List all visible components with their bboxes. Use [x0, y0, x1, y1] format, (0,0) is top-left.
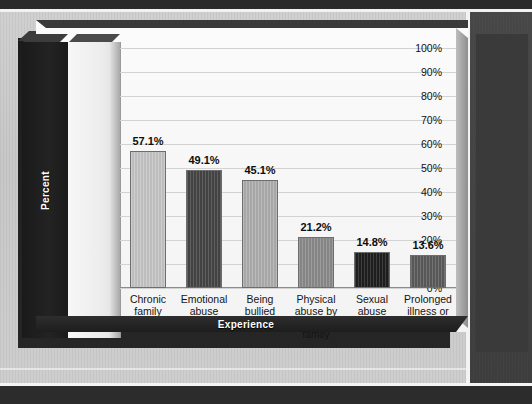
bar[interactable] — [130, 151, 166, 288]
gridline — [120, 72, 456, 73]
y-tick-label: 80% — [421, 90, 442, 102]
gridline — [120, 144, 456, 145]
y-tick-label: 100% — [415, 42, 442, 54]
y-tick-label: 70% — [421, 114, 442, 126]
y-axis-title-text: Percent — [39, 171, 50, 210]
bar[interactable] — [410, 255, 446, 288]
gridline — [120, 240, 456, 241]
gridline — [120, 120, 456, 121]
adjacent-dark-panel — [470, 12, 532, 383]
gridline — [120, 264, 456, 265]
gridline — [120, 48, 456, 49]
x-axis-baseline — [120, 287, 456, 288]
y-tick-label: 50% — [421, 162, 442, 174]
x-category-label-line: Prolonged — [393, 294, 463, 306]
x-axis-title-text: Experience — [218, 319, 274, 330]
gridline — [120, 192, 456, 193]
gridlines — [120, 48, 456, 288]
adjacent-dark-panel-inner — [476, 34, 528, 352]
plot-board-top-shadow — [36, 20, 468, 28]
bar-value-label: 49.1% — [188, 154, 219, 166]
bar-value-label: 21.2% — [300, 221, 331, 233]
y-tick-label: 40% — [421, 186, 442, 198]
bar-value-label: 57.1% — [132, 135, 163, 147]
page-lower-rule — [0, 368, 532, 370]
gridline — [120, 96, 456, 97]
bar[interactable] — [186, 170, 222, 288]
bar[interactable] — [242, 180, 278, 288]
plot-area: 0%10%20%30%40%50%60%70%80%90%100% 57.1%4… — [120, 48, 456, 288]
bar-value-label: 45.1% — [244, 164, 275, 176]
gridline — [120, 288, 456, 289]
gridline — [120, 216, 456, 217]
y-tick-label: 60% — [421, 138, 442, 150]
bar-value-label: 13.6% — [412, 239, 443, 251]
bar-value-label: 14.8% — [356, 236, 387, 248]
page-top-highlight-rule — [0, 9, 532, 12]
bar-chart: Percent 0%10%20%30%40%50%60%70%80%90%100… — [18, 20, 468, 350]
y-tick-label: 90% — [421, 66, 442, 78]
y-axis-title: Percent — [22, 42, 68, 338]
gridline — [120, 168, 456, 169]
page-top-dark-strip — [0, 0, 532, 9]
x-axis-title: Experience — [36, 316, 456, 332]
plot-board-right-edge — [456, 28, 468, 328]
page-bottom-dark-strip — [0, 386, 532, 404]
bar[interactable] — [354, 252, 390, 288]
y-tick-label: 30% — [421, 210, 442, 222]
bar[interactable] — [298, 237, 334, 288]
